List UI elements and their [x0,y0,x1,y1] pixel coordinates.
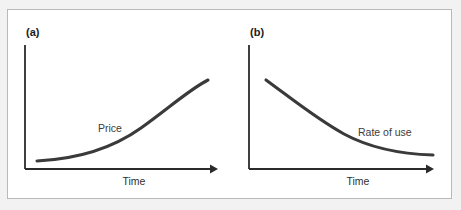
panel-a-x-axis-arrow-icon [210,165,218,174]
panel-b-curve-label: Rate of use [358,126,412,138]
panel-a-x-axis-label: Time [104,175,164,187]
panel-b-x-axis-label: Time [328,175,388,187]
panel-a-plot [8,10,240,199]
panel-b-x-axis-arrow-icon [426,165,434,174]
panel-b-curve [266,80,433,155]
figure-container: (a) Price Time (b) [0,0,461,210]
chart-panel-b: (b) Rate of use Time [240,10,453,198]
panel-b-plot [240,10,453,199]
panel-a-curve [37,80,208,161]
chart-panel-a: (a) Price Time [8,10,240,198]
panel-a-curve-label: Price [98,122,122,134]
figure-frame: (a) Price Time (b) [7,9,452,199]
